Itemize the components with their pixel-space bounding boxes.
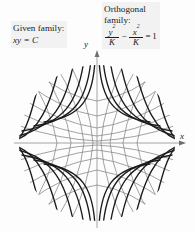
- equation-equals-sign: =: [144, 31, 151, 42]
- term-2-denominator: K: [129, 37, 143, 47]
- equation-term-1: y2 K: [105, 27, 119, 47]
- term-1-denominator: K: [105, 37, 119, 47]
- term-1-numerator: y2: [107, 27, 118, 37]
- y-axis-label: y: [84, 39, 88, 49]
- orthogonal-family-callout: Orthogonal family: y2 K − x2 K = 1: [102, 2, 160, 49]
- given-family-equation: xy = C: [13, 35, 64, 46]
- term-2-numerator: x2: [131, 27, 142, 37]
- orthogonal-family-title-line1: Orthogonal: [104, 4, 157, 15]
- orthogonal-family-title-line2: family:: [104, 15, 157, 26]
- given-family-callout: Given family: xy = C: [11, 21, 67, 48]
- equation-right-hand-side: 1: [151, 31, 157, 42]
- orthogonal-trajectories-figure: y x Given family: xy = C Orthogonal fami…: [0, 0, 195, 232]
- orthogonal-family-equation: y2 K − x2 K = 1: [104, 27, 157, 47]
- term-2-numerator-exponent: 2: [137, 23, 140, 29]
- term-1-numerator-exponent: 2: [113, 23, 116, 29]
- equation-minus-operator: −: [120, 31, 128, 42]
- given-family-title: Given family:: [13, 23, 64, 33]
- axis-lines: [14, 50, 186, 228]
- x-axis-label: x: [180, 131, 184, 141]
- equation-term-2: x2 K: [129, 27, 143, 47]
- term-1-numerator-variable: y: [109, 27, 113, 37]
